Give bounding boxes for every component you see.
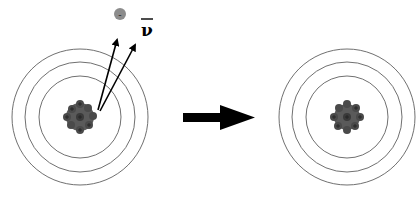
- transition-arrow-icon: [183, 105, 255, 130]
- electron-trajectory-arrow: [98, 40, 117, 110]
- beta-decay-diagram: - ν: [0, 0, 420, 198]
- nucleus: [330, 100, 364, 134]
- nucleus: [63, 100, 97, 134]
- atom-after: [279, 49, 415, 185]
- electron-particle: -: [114, 8, 126, 20]
- antineutrino-symbol: ν: [141, 20, 153, 40]
- electron-sign: -: [118, 9, 121, 20]
- antineutrino-label: ν: [141, 19, 153, 40]
- diagram-canvas: - ν: [0, 0, 420, 198]
- atom-before: [12, 40, 148, 185]
